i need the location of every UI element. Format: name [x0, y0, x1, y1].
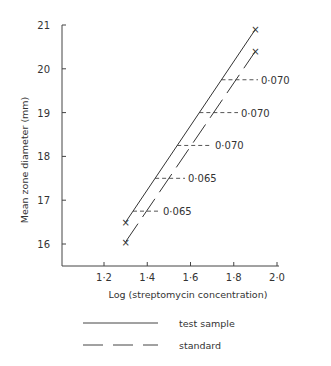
x-marker: × [121, 237, 129, 248]
difference-label: 0·070 [215, 140, 244, 151]
x-tick-label: 1·8 [226, 272, 242, 283]
difference-label: 0·065 [163, 206, 192, 217]
x-tick-label: 1·2 [96, 272, 112, 283]
x-marker: × [251, 24, 259, 35]
y-tick-label: 20 [37, 64, 50, 75]
y-axis: 161718192021 [37, 20, 66, 266]
legend: test sample standard [83, 318, 235, 351]
legend-label-test-sample: test sample [179, 318, 235, 329]
y-tick-label: 21 [37, 20, 50, 31]
chart: 161718192021 1·21·41·61·82·0 Mean zone d… [0, 0, 331, 366]
x-marker: × [251, 46, 259, 57]
x-axis: 1·21·41·61·82·0 [62, 262, 285, 283]
difference-label: 0·065 [188, 173, 217, 184]
x-marker: × [121, 217, 129, 228]
x-tick-label: 1·4 [139, 272, 155, 283]
difference-label: 0·070 [261, 75, 290, 86]
y-axis-label: Mean zone diameter (mm) [19, 97, 30, 224]
y-tick-label: 18 [37, 151, 50, 162]
y-tick-label: 19 [37, 108, 50, 119]
legend-label-standard: standard [179, 340, 221, 351]
test-sample-line [126, 29, 256, 222]
annotations: 0·0650·0650·0700·0700·070 [133, 75, 290, 217]
x-axis-label: Log (streptomycin concentration) [109, 289, 268, 300]
x-tick-label: 2·0 [269, 272, 285, 283]
y-tick-label: 16 [37, 239, 50, 250]
x-tick-label: 1·6 [183, 272, 199, 283]
y-tick-label: 17 [37, 195, 50, 206]
difference-label: 0·070 [241, 108, 270, 119]
